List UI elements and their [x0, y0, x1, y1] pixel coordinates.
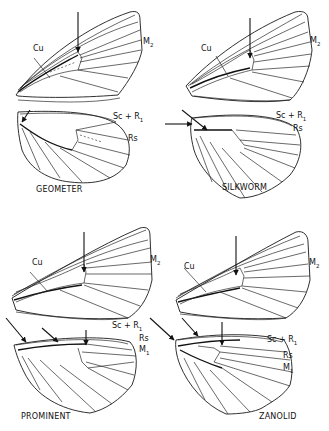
geometer-forewing	[16, 11, 142, 102]
geometer-cu-label: Cu	[33, 45, 44, 53]
zanolid-scr1-label: Sc + R1	[267, 336, 297, 346]
zanolid-m2-label: M2	[309, 259, 319, 269]
zanolid-m1-label: M1	[283, 364, 293, 374]
arrow-icon	[182, 110, 207, 130]
geometer-title: GEOMETER	[36, 186, 83, 194]
silkworm-scr1-label: Sc + R1	[276, 112, 306, 122]
silkworm-m2-label: M2	[310, 37, 320, 47]
silkworm-title: SILKWORM	[222, 184, 267, 192]
prominent-cu-label: Cu	[32, 259, 43, 267]
wing-venation-diagram	[0, 0, 329, 431]
prominent-title: PROMINENT	[21, 413, 71, 421]
silkworm-rs-label: Rs	[293, 125, 303, 133]
zanolid-cu-label: Cu	[184, 263, 195, 271]
zanolid-rs-label: Rs	[283, 352, 293, 360]
geometer-scr1-label: Sc + R1	[113, 113, 143, 123]
zanolid-hindwing	[176, 335, 292, 414]
arrow-icon	[182, 318, 198, 336]
geometer-rs-label: Rs	[128, 135, 138, 143]
prominent-scr1-label: Sc + R1	[112, 322, 142, 332]
prominent-m2-label: M2	[150, 256, 160, 266]
arrow-icon	[6, 318, 26, 342]
zanolid-title: ZANOLID	[259, 413, 297, 421]
prominent-forewing	[12, 227, 152, 319]
arrow-icon	[150, 318, 174, 340]
prominent-rs-label: Rs	[139, 335, 149, 343]
silkworm-cu-label: Cu	[201, 45, 212, 53]
prominent-hindwing	[14, 338, 136, 413]
zanolid-forewing	[176, 232, 310, 320]
silkworm-forewing	[186, 11, 312, 101]
prominent-m1-label: M1	[139, 346, 149, 356]
geometer-m2-label: M2	[143, 38, 153, 48]
